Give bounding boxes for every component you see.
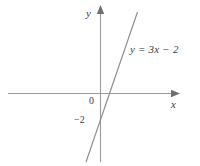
axis-label-y: y — [86, 8, 91, 19]
axis-label-x: x — [171, 99, 176, 110]
graph-figure: y x 0 −2 y = 3x − 2 — [0, 0, 200, 166]
y-axis-arrowhead — [97, 5, 104, 14]
equation-annotation: y = 3x − 2 — [130, 44, 179, 55]
coordinate-plane — [0, 0, 200, 166]
origin-label: 0 — [89, 96, 94, 106]
y-intercept-label: −2 — [74, 115, 85, 125]
function-line — [86, 12, 138, 162]
x-axis-arrowhead — [171, 90, 180, 97]
